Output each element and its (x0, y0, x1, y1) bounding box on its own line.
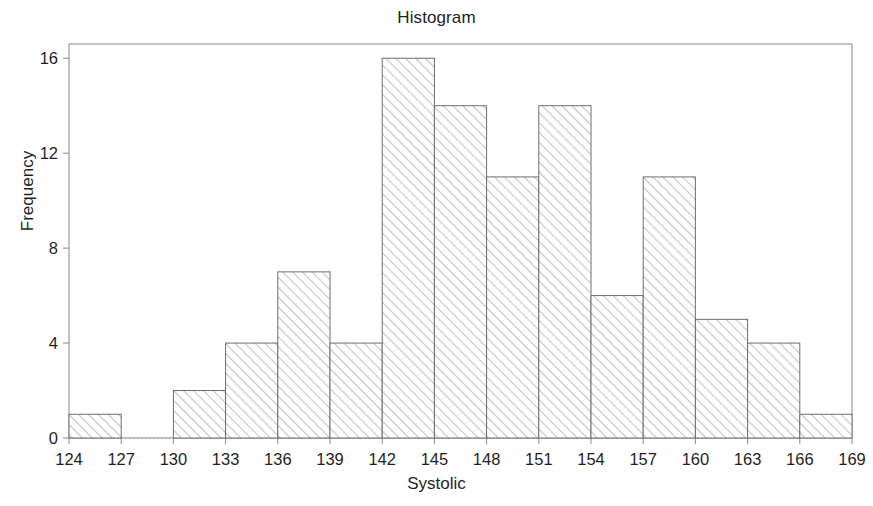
histogram-bar (643, 177, 695, 438)
histogram-bar (487, 177, 539, 438)
x-tick-label: 136 (264, 450, 292, 469)
y-tick-label: 0 (14, 429, 58, 448)
y-axis-label: Frequency (18, 111, 38, 271)
x-tick-label: 160 (682, 450, 710, 469)
histogram-bar (539, 106, 591, 438)
x-tick-label: 151 (525, 450, 553, 469)
histogram-bar (69, 414, 121, 438)
histogram-bar (591, 296, 643, 438)
x-axis-ticks (69, 438, 852, 444)
histogram-bar (278, 272, 330, 438)
x-tick-label: 127 (107, 450, 135, 469)
x-tick-label: 130 (160, 450, 188, 469)
histogram-bar (173, 391, 225, 438)
y-tick-label: 4 (14, 334, 58, 353)
histogram-bar (434, 106, 486, 438)
x-tick-label: 139 (316, 450, 344, 469)
x-tick-label: 169 (838, 450, 866, 469)
plot-canvas (0, 0, 873, 506)
histogram-bars (69, 58, 852, 438)
x-tick-label: 148 (473, 450, 501, 469)
histogram-bar (695, 319, 747, 438)
x-tick-label: 163 (734, 450, 762, 469)
histogram-figure: Histogram 0481216 1241271301331361391421… (0, 0, 873, 506)
x-tick-label: 166 (786, 450, 814, 469)
histogram-bar (748, 343, 800, 438)
x-tick-label: 142 (368, 450, 396, 469)
x-tick-label: 154 (577, 450, 605, 469)
x-tick-label: 157 (629, 450, 657, 469)
histogram-bar (800, 414, 852, 438)
histogram-bar (382, 58, 434, 438)
x-tick-label: 124 (55, 450, 83, 469)
histogram-bar (330, 343, 382, 438)
x-tick-label: 145 (421, 450, 449, 469)
y-tick-label: 16 (14, 49, 58, 68)
y-axis-ticks (63, 58, 69, 438)
x-axis-label: Systolic (0, 474, 873, 494)
x-tick-label: 133 (212, 450, 240, 469)
histogram-bar (226, 343, 278, 438)
